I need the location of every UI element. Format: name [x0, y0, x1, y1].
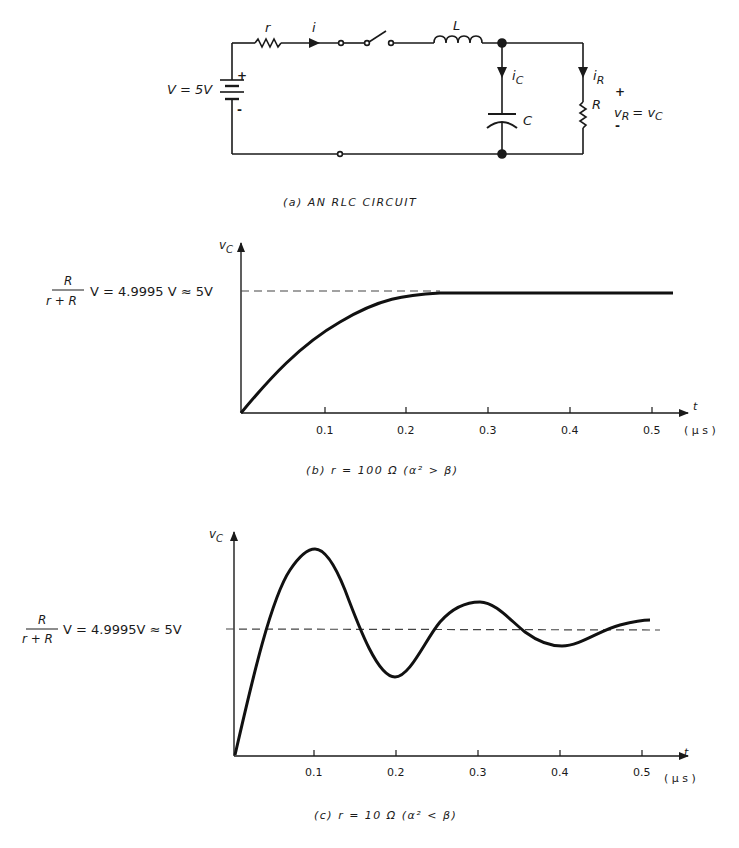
C-label: C: [523, 113, 533, 128]
ic-label: iC: [512, 68, 524, 87]
plot-b-unit-label: ( μ s ): [684, 424, 716, 437]
svg-text:0.2: 0.2: [397, 424, 415, 437]
plot-c-reference-label: R r + R V = 4.9995V ≈ 5V: [22, 613, 182, 646]
vr-eq-label: vR= vC: [614, 105, 663, 123]
caption-b: (b) r = 100 Ω (α² > β): [306, 464, 459, 477]
plot-b-ticks: [325, 407, 652, 413]
current-arrow-ir-icon: [578, 67, 588, 78]
svg-text:0.1: 0.1: [305, 766, 323, 779]
plot-b-t-label: t: [693, 400, 698, 413]
plot-b-reference-label: R r + R V = 4.9995 V ≈ 5V: [46, 274, 213, 308]
plot-c-ticks: [314, 750, 642, 756]
ir-label: iR: [593, 68, 604, 87]
plot-c-y-label: vC: [209, 527, 223, 544]
battery-minus: -: [237, 103, 242, 117]
rlc-circuit: [220, 31, 588, 158]
svg-text:0.5: 0.5: [643, 424, 661, 437]
svg-text:V = 4.9995 V ≈ 5V: V = 4.9995 V ≈ 5V: [90, 284, 213, 299]
circuit-labels: V = 5V + - r i L iC C iR R + vR= vC - (a…: [167, 18, 663, 209]
source-label: V = 5V: [167, 82, 213, 97]
vr-plus: +: [615, 85, 625, 99]
svg-text:0.5: 0.5: [633, 766, 651, 779]
svg-text:0.3: 0.3: [479, 424, 497, 437]
switch-blade-icon: [369, 31, 386, 42]
battery-plus: +: [237, 69, 247, 83]
inductor-icon: [434, 36, 482, 43]
svg-text:R: R: [38, 613, 46, 627]
svg-text:0.1: 0.1: [316, 424, 334, 437]
i-label: i: [312, 20, 316, 35]
vr-minus: -: [615, 119, 620, 133]
plot-b-y-label: vC: [219, 238, 233, 255]
svg-text:R: R: [64, 274, 72, 288]
svg-text:0.3: 0.3: [469, 766, 487, 779]
current-arrow-ic-icon: [497, 67, 507, 78]
switch-contact-icon: [389, 41, 394, 46]
plot-b-tick-labels: 0.1 0.2 0.3 0.4 0.5: [316, 424, 661, 437]
caption-c: (c) r = 10 Ω (α² < β): [314, 809, 457, 822]
plot-b: 0.1 0.2 0.3 0.4 0.5 t ( μ s ) vC R r + R…: [46, 238, 716, 477]
terminal-bottom-icon: [338, 152, 343, 157]
figure: V = 5V + - r i L iC C iR R + vR= vC - (a…: [0, 0, 739, 848]
current-arrow-i-icon: [309, 38, 320, 48]
plot-c-tick-labels: 0.1 0.2 0.3 0.4 0.5: [305, 766, 651, 779]
svg-text:0.4: 0.4: [561, 424, 579, 437]
plot-c-reference-line: [226, 629, 660, 630]
switch-terminal-icon: [339, 41, 344, 46]
svg-text:V = 4.9995V ≈ 5V: V = 4.9995V ≈ 5V: [63, 622, 182, 637]
R-label: R: [592, 97, 601, 112]
plot-c: 0.1 0.2 0.3 0.4 0.5 t ( μ s ) vC R r + R…: [22, 527, 696, 822]
svg-text:r + R: r + R: [46, 294, 77, 308]
plot-b-curve: [241, 293, 673, 413]
svg-text:r + R: r + R: [22, 632, 53, 646]
svg-text:0.4: 0.4: [551, 766, 569, 779]
resistor-R-icon: [580, 102, 586, 128]
L-label: L: [453, 18, 460, 33]
plot-c-curve: [235, 549, 650, 755]
plot-c-t-label: t: [684, 746, 689, 759]
caption-a: (a) AN RLC CIRCUIT: [283, 196, 417, 209]
r-label: r: [265, 20, 272, 35]
svg-text:0.2: 0.2: [387, 766, 405, 779]
plot-c-unit-label: ( μ s ): [664, 772, 696, 785]
resistor-r-icon: [255, 39, 281, 47]
